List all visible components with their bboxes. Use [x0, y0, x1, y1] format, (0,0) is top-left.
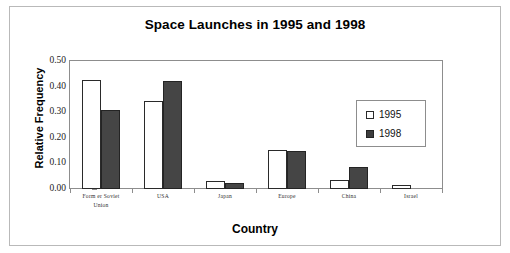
- chart-title: Space Launches in 1995 and 1998: [0, 17, 510, 32]
- legend-label: 1995: [379, 109, 401, 120]
- bar: [144, 101, 163, 189]
- x-tick-label: Europe: [252, 192, 322, 201]
- x-tick-label-line: Japan: [190, 192, 260, 201]
- bar: [330, 180, 349, 189]
- x-tick-label-line: Europe: [252, 192, 322, 201]
- y-tick-label: 0.50: [32, 55, 66, 65]
- chart-legend: 19951998: [356, 100, 426, 147]
- bar: [206, 181, 225, 189]
- legend-item: 1995: [366, 105, 425, 124]
- bar: [82, 80, 101, 189]
- bar: [101, 110, 120, 189]
- x-tick-label: Form er SovietUnion: [66, 192, 136, 209]
- bar: [163, 81, 182, 189]
- legend-swatch-icon: [366, 111, 374, 119]
- legend-label: 1998: [379, 128, 401, 139]
- x-tick-label: USA: [128, 192, 198, 201]
- chart-figure: Space Launches in 1995 and 1998 Relative…: [0, 0, 510, 253]
- y-tick-label: 0.30: [32, 106, 66, 116]
- y-tick-label: 0.20: [32, 132, 66, 142]
- bar: [392, 185, 411, 189]
- x-tick-label-line: USA: [128, 192, 198, 201]
- legend-item: 1998: [366, 124, 425, 143]
- y-tick-label: 0.00: [32, 183, 66, 193]
- x-tick-label-line: Israel: [376, 192, 446, 201]
- x-tick-label-line: Form er Soviet: [66, 192, 136, 201]
- y-tick-label: 0.40: [32, 81, 66, 91]
- bar: [225, 183, 244, 189]
- x-tick-mark: [442, 189, 443, 193]
- x-tick-label: Japan: [190, 192, 260, 201]
- x-tick-label: Israel: [376, 192, 446, 201]
- x-axis-title: Country: [0, 222, 510, 236]
- x-tick-label-line: Union: [66, 201, 136, 210]
- x-tick-label-line: China: [314, 192, 384, 201]
- legend-swatch-icon: [366, 130, 374, 138]
- bar: [287, 151, 306, 189]
- y-tick-label: 0.10: [32, 157, 66, 167]
- y-axis-tick-labels: 0.000.100.200.300.400.50: [28, 0, 66, 253]
- bar: [268, 150, 287, 189]
- y-tick-mark: [92, 189, 97, 190]
- bar: [349, 167, 368, 189]
- x-tick-label: China: [314, 192, 384, 201]
